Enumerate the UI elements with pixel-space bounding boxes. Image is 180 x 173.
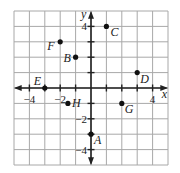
- x-axis-arrow-left-icon: [14, 85, 22, 91]
- x-tick-label: −2: [54, 93, 66, 105]
- point-h: H: [65, 96, 82, 110]
- y-tick-label: −2: [75, 113, 87, 125]
- point-label: B: [64, 51, 72, 65]
- point-label: C: [110, 25, 119, 39]
- point-dot-icon: [135, 70, 140, 75]
- y-axis-arrow-up-icon: [88, 11, 94, 19]
- y-axis-arrow-down-icon: [88, 157, 94, 165]
- point-dot-icon: [65, 101, 70, 106]
- point-dot-icon: [73, 55, 78, 60]
- coordinate-plane: xy −4−244−2−4 ABCDEFGH: [0, 0, 180, 173]
- point-dot-icon: [119, 101, 124, 106]
- point-dot-icon: [88, 132, 93, 137]
- point-label: H: [71, 96, 82, 110]
- point-dot-icon: [42, 85, 47, 90]
- x-tick-label: −4: [24, 93, 36, 105]
- x-tick-label: 4: [150, 93, 156, 105]
- point-label: A: [93, 133, 102, 147]
- point-label: G: [125, 102, 134, 116]
- point-label: E: [33, 74, 42, 88]
- point-dot-icon: [104, 24, 109, 29]
- y-tick-label: 4: [82, 20, 88, 32]
- point-label: D: [139, 72, 149, 86]
- point-label: F: [46, 39, 55, 53]
- x-axis-label: x: [161, 87, 168, 101]
- point-dot-icon: [58, 39, 63, 44]
- y-axis-label: y: [80, 7, 87, 21]
- y-tick-label: −4: [75, 144, 87, 156]
